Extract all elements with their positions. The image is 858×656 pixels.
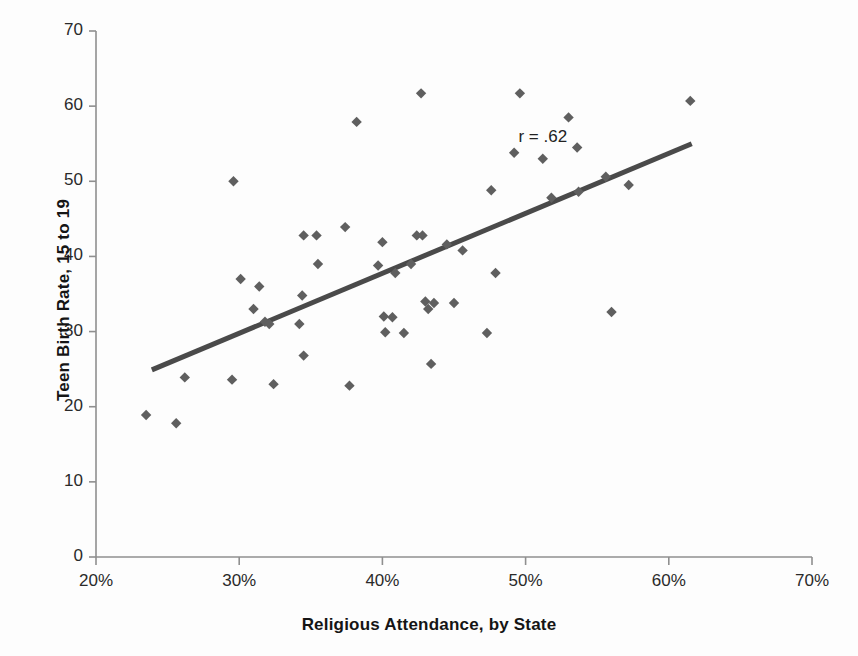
data-point-marker: [379, 311, 389, 321]
y-tick-label: 70: [31, 20, 83, 40]
data-point-marker: [248, 304, 258, 314]
data-point-marker: [457, 245, 467, 255]
plot-area: [0, 0, 858, 656]
data-point-marker: [180, 372, 190, 382]
x-tick-label: 20%: [61, 571, 131, 591]
data-point-marker: [171, 418, 181, 428]
data-point-marker: [228, 176, 238, 186]
data-point-marker: [685, 96, 695, 106]
y-tick-label: 10: [31, 471, 83, 491]
data-point-marker: [449, 298, 459, 308]
data-point-marker: [227, 374, 237, 384]
y-axis-title: Teen Birth Rate, 15 to 19: [54, 150, 74, 450]
data-point-marker: [416, 88, 426, 98]
data-point-marker: [417, 230, 427, 240]
data-point-marker: [563, 112, 573, 122]
data-point-marker: [486, 185, 496, 195]
data-point-marker: [298, 350, 308, 360]
data-point-marker: [624, 180, 634, 190]
data-point-marker: [538, 154, 548, 164]
scatter-chart: 010203040506070 20%30%40%50%60%70% r = .…: [0, 0, 858, 656]
data-point-marker: [344, 380, 354, 390]
axes: [89, 31, 812, 565]
data-point-marker: [298, 230, 308, 240]
data-point-marker: [268, 379, 278, 389]
x-tick-label: 30%: [204, 571, 274, 591]
data-point-marker: [572, 142, 582, 152]
x-tick-label: 70%: [777, 571, 847, 591]
data-point-marker: [380, 327, 390, 337]
data-point-marker: [235, 274, 245, 284]
x-tick-label: 60%: [634, 571, 704, 591]
data-point-marker: [351, 117, 361, 127]
data-point-marker: [515, 88, 525, 98]
data-point-marker: [606, 307, 616, 317]
data-point-marker: [294, 319, 304, 329]
data-point-marker: [482, 328, 492, 338]
data-point-marker: [313, 259, 323, 269]
data-point-marker: [490, 268, 500, 278]
data-point-marker: [509, 148, 519, 158]
data-point-marker: [426, 359, 436, 369]
y-tick-label: 60: [31, 95, 83, 115]
data-point-marker: [399, 328, 409, 338]
data-point-marker: [387, 312, 397, 322]
data-point-marker: [373, 260, 383, 270]
data-point-marker: [141, 410, 151, 420]
data-point-marker: [377, 237, 387, 247]
data-point-marker: [254, 281, 264, 291]
data-point-marker: [340, 222, 350, 232]
x-axis-title: Religious Attendance, by State: [0, 615, 858, 635]
x-tick-label: 50%: [491, 571, 561, 591]
x-tick-label: 40%: [347, 571, 417, 591]
data-point-marker: [297, 290, 307, 300]
correlation-annotation: r = .62: [518, 127, 567, 147]
y-tick-label: 0: [31, 546, 83, 566]
data-point-marker: [311, 230, 321, 240]
